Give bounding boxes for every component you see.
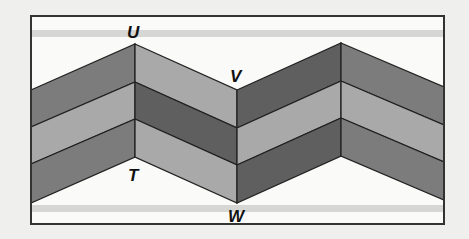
label-v: V (230, 67, 243, 86)
top-stripe (32, 30, 443, 37)
chevron-diagram: U V T W (0, 0, 469, 239)
label-u: U (127, 23, 140, 42)
label-w: W (228, 207, 246, 226)
label-t: T (128, 166, 140, 185)
